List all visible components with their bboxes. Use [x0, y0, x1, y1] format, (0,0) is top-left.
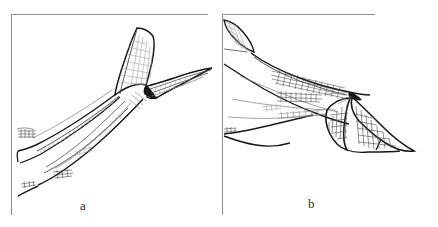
- panel-label-b: b: [308, 197, 315, 210]
- figure-background: [0, 0, 438, 227]
- figure-root: a b: [0, 0, 438, 227]
- panel-label-a: a: [80, 199, 86, 212]
- figure-illustration: [0, 0, 438, 227]
